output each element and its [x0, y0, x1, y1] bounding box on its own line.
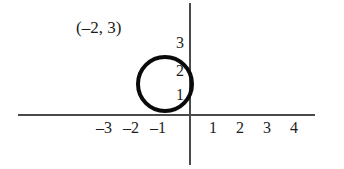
point-coordinate-label: (–2, 3) [76, 19, 121, 36]
coordinate-plane-figure: (–2, 3) –3 –2 –1 1 2 3 4 3 2 1 [0, 0, 344, 169]
x-tick-label-3: 3 [256, 120, 278, 136]
x-tick-label-neg2: –2 [120, 120, 142, 136]
y-tick-label-3: 3 [168, 35, 184, 51]
y-tick-label-2: 2 [168, 63, 184, 79]
y-tick-label-1: 1 [168, 87, 184, 103]
x-axis-line [18, 114, 315, 116]
x-tick-label-neg3: –3 [93, 120, 115, 136]
circle-shape [136, 55, 194, 113]
x-tick-label-2: 2 [229, 120, 251, 136]
x-tick-label-1: 1 [202, 120, 224, 136]
x-tick-label-neg1: –1 [147, 120, 169, 136]
x-tick-label-4: 4 [283, 120, 305, 136]
